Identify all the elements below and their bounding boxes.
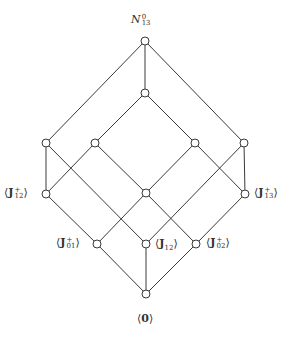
node-r1 — [240, 139, 248, 147]
node-J02p — [192, 240, 200, 248]
label-J01-plus: ⟨J+01⟩ — [56, 237, 80, 250]
node-J13p — [241, 190, 249, 198]
edge-r1-J12 — [146, 143, 244, 244]
node-J01p — [93, 240, 101, 248]
edge-r1-J13p — [244, 143, 245, 194]
node-n2 — [141, 89, 149, 97]
edge-n2-l2 — [95, 93, 145, 143]
edge-top-r1 — [145, 41, 244, 143]
edge-J01p-zero — [97, 244, 146, 294]
edge-l1-J12 — [46, 143, 146, 244]
label-J02-plus: ⟨J+02⟩ — [206, 237, 230, 250]
label-zero: ⟨0⟩ — [137, 313, 153, 324]
node-l1 — [42, 139, 50, 147]
edge-l2-mid — [95, 143, 146, 193]
node-l2 — [91, 139, 99, 147]
label-J13-plus: ⟨J+13⟩ — [254, 187, 278, 200]
node-J12 — [142, 240, 150, 248]
label-J12: ⟨J12⟩ — [155, 238, 178, 252]
lattice-diagram — [0, 0, 292, 340]
edge-r2-mid — [146, 143, 195, 193]
node-r2 — [191, 139, 199, 147]
node-zero — [142, 290, 150, 298]
node-J12p — [42, 190, 50, 198]
edge-top-l1 — [46, 41, 145, 143]
edge-n2-r2 — [145, 93, 195, 143]
label-top: N013 — [131, 14, 151, 27]
label-J12-plus: ⟨J+12⟩ — [4, 187, 28, 200]
edges — [46, 41, 245, 294]
node-mid — [142, 189, 150, 197]
node-top — [141, 37, 149, 45]
